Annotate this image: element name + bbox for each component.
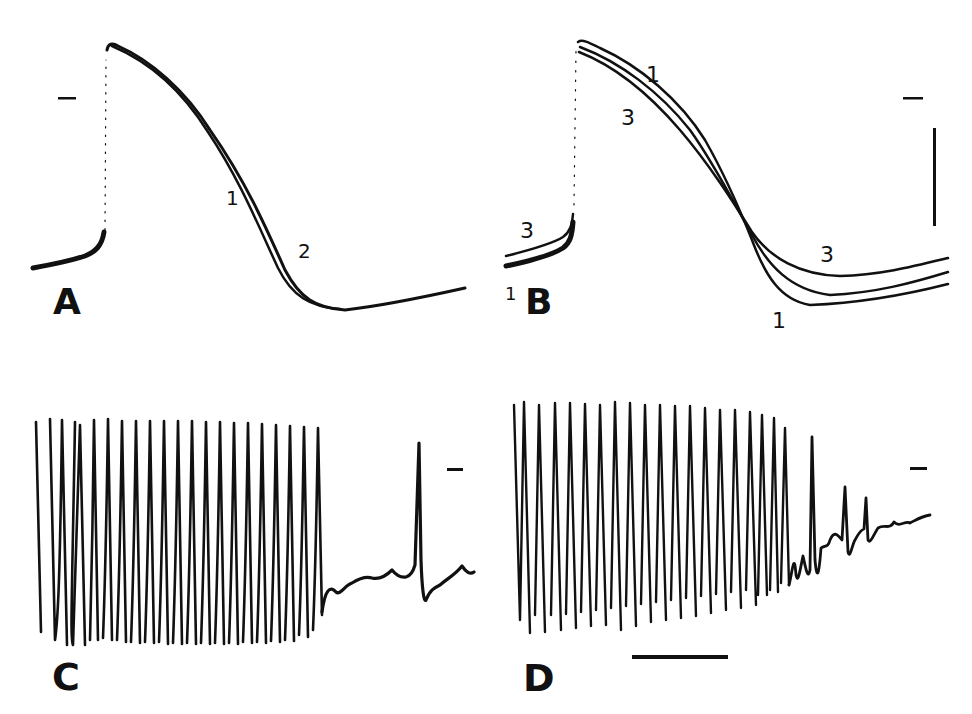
figure-canvas: 1 2 A 1 3 3 1 3 1 B C D [0,0,972,714]
trace-label-b-1-left: 1 [505,283,516,304]
zero-marker-c [447,468,463,471]
trace-c-spike-train [36,419,322,645]
panel-label-b: B [525,281,552,322]
trace-a-1 [112,46,340,309]
trace-d-spike-train [514,402,789,633]
panel-d: D [514,402,930,700]
zero-marker-a [58,97,76,100]
trace-label-b-3-right: 3 [820,242,834,267]
trace-b-1 [578,41,948,305]
zero-marker-b [903,97,923,100]
zero-marker-d [910,467,927,470]
horizontal-scale-bar [632,655,728,659]
trace-label-a-2: 2 [298,239,311,263]
trace-b-upstroke [574,50,576,205]
panel-label-a: A [53,281,81,322]
panel-c: C [36,419,474,699]
vertical-scale-bar [933,128,936,226]
trace-b-3 [579,52,948,276]
trace-d-baseline [789,437,930,585]
trace-label-a-1: 1 [226,186,239,210]
panel-label-d: D [523,656,555,700]
trace-a-baseline [33,232,104,268]
panel-b: 1 3 3 1 3 1 B [505,41,948,333]
trace-label-b-1-right: 1 [772,308,786,333]
trace-a-2 [107,44,465,310]
trace-label-b-3-top: 3 [621,105,635,130]
panel-a: 1 2 A [33,44,465,322]
trace-label-b-3-left: 3 [520,218,534,243]
panel-label-c: C [52,655,80,699]
trace-b-1-baseline [506,222,573,266]
trace-a-upstroke [105,60,106,230]
trace-label-b-1-top: 1 [646,62,660,87]
